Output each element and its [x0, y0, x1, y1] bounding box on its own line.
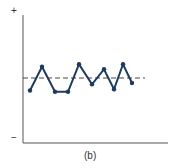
caption: (b): [84, 150, 96, 161]
data-point: [40, 65, 44, 69]
chart-svg: [0, 0, 179, 168]
data-point: [130, 81, 134, 85]
data-point: [102, 67, 106, 71]
data-point: [77, 62, 81, 66]
data-point: [66, 90, 70, 94]
data-point: [112, 87, 116, 91]
data-point: [53, 90, 57, 94]
y-bottom-label: −: [11, 132, 17, 143]
data-point: [121, 62, 125, 66]
y-top-label: +: [11, 5, 17, 16]
data-point: [28, 88, 32, 92]
data-point: [90, 82, 94, 86]
